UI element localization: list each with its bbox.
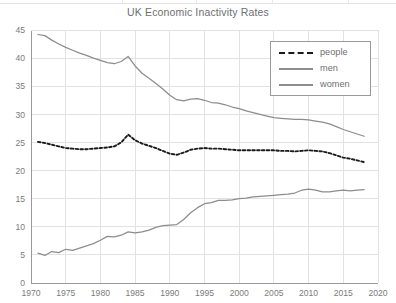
svg-text:25: 25: [15, 138, 25, 148]
svg-text:1990: 1990: [160, 288, 179, 298]
svg-text:1980: 1980: [91, 288, 110, 298]
series-line-people: [38, 135, 364, 163]
svg-text:45: 45: [15, 25, 25, 35]
svg-text:1975: 1975: [56, 288, 75, 298]
svg-text:2005: 2005: [264, 288, 283, 298]
svg-text:0: 0: [20, 278, 25, 288]
legend-swatch-men-icon: [279, 68, 313, 70]
svg-text:2020: 2020: [368, 288, 387, 298]
svg-text:1995: 1995: [195, 288, 214, 298]
legend-item-people: people: [279, 45, 348, 61]
legend-label-women: women: [320, 80, 350, 89]
x-axis-tick-labels: 1970197519801985199019952000200520102015…: [21, 288, 387, 298]
svg-text:2010: 2010: [299, 288, 318, 298]
legend-swatch-people-icon: [279, 52, 313, 54]
legend-item-men: men: [279, 61, 338, 77]
legend-label-people: people: [320, 48, 348, 57]
svg-text:20: 20: [15, 166, 25, 176]
svg-text:1985: 1985: [126, 288, 145, 298]
svg-text:30: 30: [15, 110, 25, 120]
svg-text:1970: 1970: [21, 288, 40, 298]
legend-swatch-women-icon: [279, 84, 313, 86]
svg-text:10: 10: [15, 222, 25, 232]
svg-text:40: 40: [15, 53, 25, 63]
y-axis-tick-labels: 051015202530354045: [15, 25, 25, 288]
chart-legend: people men women: [270, 41, 371, 96]
svg-text:2000: 2000: [230, 288, 249, 298]
legend-label-men: men: [320, 64, 338, 73]
svg-text:35: 35: [15, 81, 25, 91]
legend-item-women: women: [279, 77, 350, 93]
chart-container: UK Economic Inactivity Rates 05101520253…: [0, 0, 396, 303]
svg-text:15: 15: [15, 194, 25, 204]
svg-text:2015: 2015: [334, 288, 353, 298]
svg-text:5: 5: [20, 250, 25, 260]
